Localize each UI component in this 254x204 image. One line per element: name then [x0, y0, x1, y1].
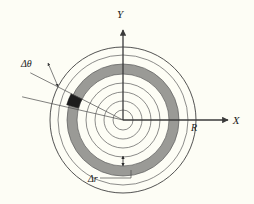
diagram-canvas: Y X R Δθ Δr	[0, 0, 254, 204]
delta-theta-label: Δθ	[20, 58, 32, 69]
delta-r-label: Δr	[87, 173, 98, 184]
x-axis-label: X	[232, 114, 241, 126]
outer-radius-label: R	[190, 122, 197, 133]
polar-annulus-diagram: Y X R Δθ Δr	[0, 0, 254, 204]
